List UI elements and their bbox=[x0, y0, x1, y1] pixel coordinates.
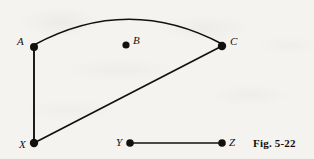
vertex-label-a: A bbox=[17, 36, 24, 47]
vertex-dot-x bbox=[30, 139, 38, 147]
vertex-dot-z bbox=[218, 139, 226, 147]
vertex-label-b: B bbox=[133, 35, 140, 46]
edge-arc-a-c bbox=[34, 19, 222, 45]
vertex-dot-b bbox=[122, 41, 129, 48]
edge-line-x-c bbox=[34, 46, 222, 143]
vertex-label-z: Z bbox=[229, 137, 235, 148]
vertex-label-x: X bbox=[19, 139, 26, 150]
vertex-label-y: Y bbox=[116, 137, 122, 148]
vertex-label-c: C bbox=[230, 36, 237, 47]
figure-caption: Fig. 5-22 bbox=[253, 138, 296, 149]
edge-group bbox=[34, 19, 222, 143]
vertex-dot-c bbox=[218, 42, 226, 50]
diagram-canvas bbox=[0, 0, 314, 159]
vertex-dot-y bbox=[126, 139, 134, 147]
figure-container: A B C X Y Z Fig. 5-22 bbox=[0, 0, 314, 159]
vertex-dot-a bbox=[30, 43, 38, 51]
